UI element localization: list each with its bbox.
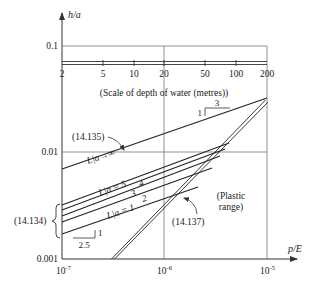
depth-scale-label: (Scale of depth of water (metres)) [100, 88, 228, 99]
x-tick-labels: 10-7 10-6 10-5 [56, 264, 275, 276]
annotation-14-134: (14.134) [14, 216, 46, 227]
depth-tick: 20 [159, 69, 169, 79]
chart: 2 5 10 20 50 100 200 (Scale of depth of … [0, 0, 322, 289]
depth-tick: 200 [260, 69, 275, 79]
x-tick-1e-6: 10-6 [157, 264, 173, 276]
y-tick-0.1: 0.1 [46, 41, 58, 51]
x-tick-1e-7: 10-7 [56, 264, 72, 276]
depth-tick-labels: 2 5 10 20 50 100 200 [60, 69, 275, 79]
depth-scale [62, 60, 267, 66]
annotation-14-135: (14.135) [72, 132, 104, 143]
depth-tick: 5 [101, 69, 106, 79]
y-axis-label: h/a [68, 9, 81, 20]
slope-triangle-bottom [73, 230, 95, 238]
y-tick-0.001: 0.001 [37, 254, 59, 264]
line-la-2 [62, 168, 212, 222]
depth-tick: 100 [229, 69, 244, 79]
y-tick-labels: 0.1 0.01 0.001 [37, 41, 59, 264]
slope-top-run: 3 [215, 98, 220, 108]
slope-bottom-run: 2.5 [78, 240, 90, 250]
x-tick-1e-5: 10-5 [260, 264, 275, 276]
slope-top-rise: 1 [198, 108, 203, 118]
label-la-inf: L|a→∞ [84, 147, 116, 166]
brace-14-134 [52, 204, 60, 238]
depth-tick: 50 [200, 69, 210, 79]
plastic-limit-line [112, 100, 269, 259]
arrow-14-137 [184, 198, 197, 214]
label-la-2: 2 [140, 193, 148, 204]
plastic-range-label-1: (Plastic [217, 191, 246, 202]
x-axis-label: p/E [287, 243, 302, 254]
series-lines [62, 98, 267, 234]
plastic-range-label-2: range) [219, 202, 243, 213]
depth-tick: 10 [129, 69, 139, 79]
depth-tick: 2 [60, 69, 65, 79]
annotation-14-137: (14.137) [172, 217, 204, 228]
y-tick-0.01: 0.01 [41, 147, 58, 157]
slope-bottom-rise: 1 [98, 228, 103, 238]
label-la-5: L|a = 5 [96, 179, 127, 199]
